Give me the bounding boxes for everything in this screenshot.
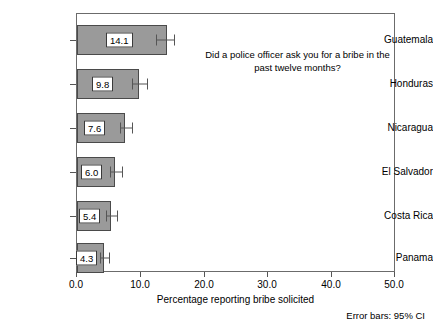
error-bar-cap-high — [174, 35, 175, 46]
error-bar-panama — [100, 253, 110, 264]
bar-value-guatemala: 14.1 — [106, 33, 133, 48]
error-bar-cap-low — [120, 123, 121, 134]
x-axis-ticklabel-50: 50.0 — [372, 279, 416, 291]
error-bar-cap-low — [100, 253, 101, 264]
x-axis-ticklabel-0: 0.0 — [54, 279, 98, 291]
error-bar-cap-high — [132, 123, 133, 134]
x-axis-ticklabel-40: 40.0 — [309, 279, 353, 291]
error-bar-cap-high — [122, 167, 123, 178]
error-bar-cap-low — [132, 79, 133, 90]
error-bar-line — [156, 40, 175, 41]
x-axis-tick — [204, 272, 205, 277]
bar-row-nicaragua: 7.6 — [77, 113, 395, 143]
bar-value-panama: 4.3 — [76, 251, 97, 266]
error-bar-cap-high — [147, 79, 148, 90]
y-axis-tick — [70, 216, 76, 217]
bar-value-nicaragua: 7.6 — [84, 121, 105, 136]
error-bar-guatemala — [156, 35, 175, 46]
bar-row-costa-rica: 5.4 — [77, 201, 395, 231]
error-bar-nicaragua — [120, 123, 133, 134]
error-bar-costa-rica — [106, 211, 118, 222]
question-annotation: Did a police officer ask you for a bribe… — [205, 48, 390, 74]
x-axis-tick — [331, 272, 332, 277]
bar-row-panama: 4.3 — [77, 243, 395, 273]
bar-value-costa-rica: 5.4 — [79, 209, 100, 224]
x-axis-ticklabel-30: 30.0 — [245, 279, 289, 291]
error-bar-el-salvador — [110, 167, 123, 178]
y-axis-tick — [70, 84, 76, 85]
x-axis-tick — [394, 272, 395, 277]
error-bar-cap-high — [117, 211, 118, 222]
x-axis-tick — [267, 272, 268, 277]
bar-value-el-salvador: 6.0 — [81, 165, 102, 180]
error-bar-cap-low — [106, 211, 107, 222]
error-bar-honduras — [132, 79, 148, 90]
error-bar-cap-low — [156, 35, 157, 46]
x-axis-tick — [76, 272, 77, 277]
error-bar-note: Error bars: 95% CI — [346, 310, 425, 322]
x-axis-title: Percentage reporting bribe solicited — [76, 294, 395, 306]
x-axis-ticklabel-10: 10.0 — [118, 279, 162, 291]
y-axis-tick — [70, 172, 76, 173]
x-axis-tick — [140, 272, 141, 277]
y-axis-tick — [70, 128, 76, 129]
error-bar-cap-low — [110, 167, 111, 178]
error-bar-line — [132, 84, 148, 85]
error-bar-cap-high — [109, 253, 110, 264]
y-axis-tick — [70, 40, 76, 41]
bar-row-el-salvador: 6.0 — [77, 157, 395, 187]
bar-value-honduras: 9.8 — [92, 77, 113, 92]
x-axis-ticklabel-20: 20.0 — [182, 279, 226, 291]
bar-chart: Guatemala Honduras Nicaragua El Salvador… — [0, 0, 433, 328]
